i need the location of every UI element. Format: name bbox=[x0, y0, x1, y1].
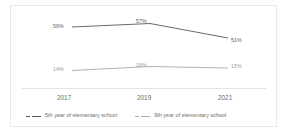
x-tick-2021: 2021 bbox=[218, 95, 232, 101]
legend-item-9th-year[interactable]: 9th year of elementary school bbox=[135, 113, 226, 118]
data-label-5th-2021: 51% bbox=[231, 38, 242, 43]
legend-marker-9th-year bbox=[135, 114, 151, 118]
data-label-5th-2017: 56% bbox=[53, 24, 64, 29]
series-line-9th-year bbox=[72, 67, 228, 71]
legend-label-9th-year: 9th year of elementary school bbox=[154, 113, 226, 118]
legend-label-5th-year: 5th year of elementary school bbox=[45, 113, 117, 118]
data-label-9th-2019: 16% bbox=[136, 63, 147, 68]
legend-item-5th-year[interactable]: 5th year of elementary school bbox=[26, 113, 117, 118]
data-label-5th-2019: 57% bbox=[136, 19, 147, 24]
line-chart: 56% 57% 51% 14% 16% 15% 2017 2019 2021 5… bbox=[0, 0, 287, 132]
legend-marker-5th-year bbox=[26, 114, 42, 118]
series-line-5th-year bbox=[72, 24, 228, 39]
data-label-9th-2021: 15% bbox=[231, 64, 242, 69]
x-tick-2017: 2017 bbox=[57, 95, 71, 101]
data-label-9th-2017: 14% bbox=[53, 67, 64, 72]
chart-legend: 5th year of elementary school 9th year o… bbox=[26, 110, 266, 122]
x-tick-2019: 2019 bbox=[137, 95, 151, 101]
